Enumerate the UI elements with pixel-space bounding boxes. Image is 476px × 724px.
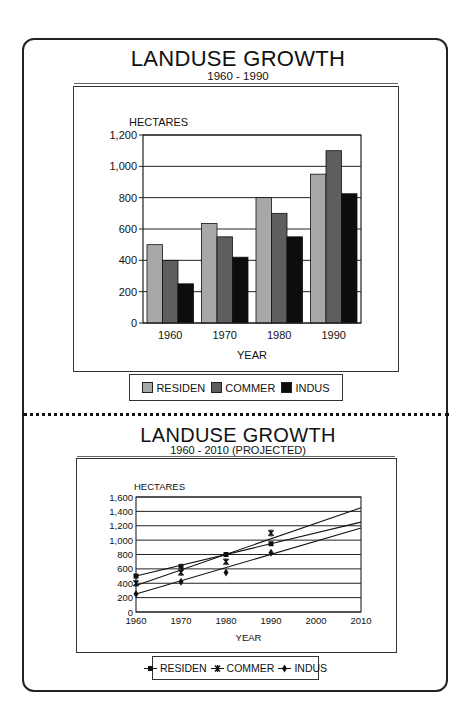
line-chart: HECTARES02004006008001,0001,2001,4001,60… bbox=[77, 459, 398, 654]
top-title-rule bbox=[74, 83, 398, 84]
legend-item-commer: COMMER bbox=[211, 662, 275, 674]
svg-text:1,200: 1,200 bbox=[109, 129, 137, 141]
legend-label: INDUS bbox=[294, 662, 327, 674]
svg-text:400: 400 bbox=[117, 578, 133, 589]
top-chart-panel: HECTARES02004006008001,0001,200196019701… bbox=[73, 86, 399, 372]
svg-text:0: 0 bbox=[131, 317, 137, 329]
svg-text:HECTARES: HECTARES bbox=[134, 481, 185, 492]
svg-text:1960: 1960 bbox=[125, 615, 146, 626]
svg-text:600: 600 bbox=[119, 223, 137, 235]
legend-label: COMMER bbox=[225, 382, 275, 394]
top-chart-subtitle: 1960 - 1990 bbox=[0, 70, 476, 82]
svg-text:2010: 2010 bbox=[350, 615, 371, 626]
section-divider bbox=[23, 413, 449, 416]
svg-text:1990: 1990 bbox=[260, 615, 281, 626]
svg-text:800: 800 bbox=[119, 192, 137, 204]
svg-text:1980: 1980 bbox=[215, 615, 236, 626]
svg-text:1,000: 1,000 bbox=[109, 535, 133, 546]
svg-text:1970: 1970 bbox=[213, 329, 237, 341]
svg-text:1,400: 1,400 bbox=[109, 506, 133, 517]
square-marker-icon bbox=[144, 664, 157, 673]
svg-text:800: 800 bbox=[117, 549, 133, 560]
legend-label: RESIDEN bbox=[160, 662, 207, 674]
legend-item-residen: RESIDEN bbox=[142, 382, 205, 394]
svg-text:1,600: 1,600 bbox=[109, 492, 133, 503]
top-legend: RESIDEN COMMER INDUS bbox=[129, 374, 343, 401]
svg-text:2000: 2000 bbox=[305, 615, 326, 626]
svg-text:1960: 1960 bbox=[158, 329, 182, 341]
legend-label: COMMER bbox=[227, 662, 275, 674]
legend-item-residen: RESIDEN bbox=[144, 662, 207, 674]
diamond-marker-icon bbox=[278, 664, 291, 673]
svg-text:200: 200 bbox=[119, 286, 137, 298]
bottom-title-rule bbox=[77, 456, 395, 457]
asterisk-marker-icon bbox=[211, 664, 224, 673]
bottom-legend: RESIDEN COMMER INDUS bbox=[152, 656, 319, 680]
commer-swatch-icon bbox=[211, 382, 222, 393]
svg-text:1980: 1980 bbox=[267, 329, 291, 341]
bottom-chart-panel: HECTARES02004006008001,0001,2001,4001,60… bbox=[76, 458, 397, 653]
legend-item-indus: INDUS bbox=[281, 382, 329, 394]
bottom-chart-subtitle: 1960 - 2010 (PROJECTED) bbox=[0, 444, 476, 456]
svg-text:1990: 1990 bbox=[322, 329, 346, 341]
legend-item-indus: INDUS bbox=[278, 662, 327, 674]
svg-text:YEAR: YEAR bbox=[236, 632, 262, 643]
svg-text:1,000: 1,000 bbox=[109, 160, 137, 172]
svg-text:1,200: 1,200 bbox=[109, 520, 133, 531]
svg-text:600: 600 bbox=[117, 563, 133, 574]
residen-swatch-icon bbox=[142, 382, 153, 393]
legend-item-commer: COMMER bbox=[211, 382, 275, 394]
legend-label: INDUS bbox=[295, 382, 329, 394]
legend-label: RESIDEN bbox=[156, 382, 205, 394]
svg-text:YEAR: YEAR bbox=[237, 349, 267, 361]
svg-text:400: 400 bbox=[119, 254, 137, 266]
bar-chart: HECTARES02004006008001,0001,200196019701… bbox=[74, 87, 400, 373]
svg-text:HECTARES: HECTARES bbox=[129, 116, 188, 128]
top-chart-title: LANDUSE GROWTH bbox=[0, 46, 476, 72]
svg-text:200: 200 bbox=[117, 592, 133, 603]
indus-swatch-icon bbox=[281, 382, 292, 393]
svg-text:1970: 1970 bbox=[170, 615, 191, 626]
